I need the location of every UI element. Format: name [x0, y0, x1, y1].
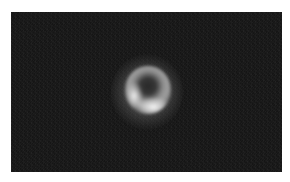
- photo-frame: [11, 12, 282, 172]
- glowing-ring: [125, 66, 171, 114]
